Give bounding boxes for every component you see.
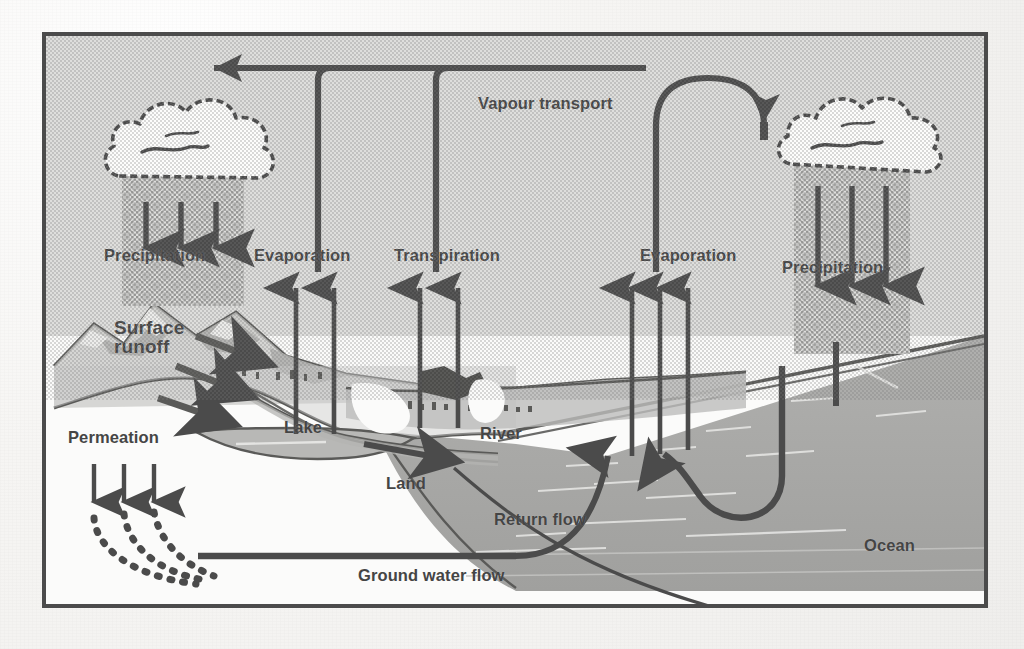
label-precipitation-left: Precipitation [104, 246, 205, 265]
label-evaporation-lake: Evaporation [254, 246, 350, 265]
return-flow-deep [664, 366, 782, 518]
diagram-scene: Precipitation Evaporation Transpiration … [46, 36, 984, 604]
precipitation-left-arrows [146, 202, 216, 248]
evaporation-lake-arrows [296, 288, 334, 434]
label-evaporation-ocean: Evaporation [640, 246, 736, 265]
label-ground-water-flow: Ground water flow [358, 566, 505, 585]
label-permeation: Permeation [68, 428, 159, 447]
vapour-right-arrowhead [750, 92, 780, 122]
label-surface-runoff: Surface runoff [114, 318, 184, 357]
label-ocean: Ocean [864, 536, 915, 555]
vapour-arch-right [656, 78, 764, 272]
water-cycle-figure: Precipitation Evaporation Transpiration … [42, 32, 988, 608]
permeation-arrows [94, 464, 154, 502]
evaporation-ocean-arrows [632, 288, 688, 456]
label-river: River [480, 424, 522, 443]
label-transpiration: Transpiration [394, 246, 500, 265]
label-land: Land [386, 474, 426, 493]
label-lake: Lake [284, 418, 322, 437]
return-flow-groundwater [516, 456, 608, 556]
permeation-seepage-curves [94, 512, 214, 584]
vapour-transport-flow [214, 54, 780, 272]
transpiration-arrows [420, 288, 458, 428]
return-flow-river-arrow [364, 444, 452, 460]
vapour-feeder-transpiration [436, 68, 448, 272]
label-return-flow: Return flow [494, 510, 586, 529]
vapour-feeder-evaporation [318, 68, 330, 272]
label-vapour-transport: Vapour transport [478, 94, 613, 113]
label-precipitation-right: Precipitation [782, 258, 883, 277]
